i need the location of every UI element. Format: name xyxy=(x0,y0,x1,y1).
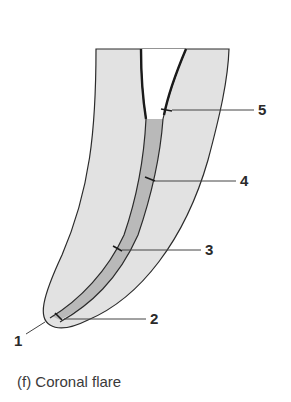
figure-caption: (f) Coronal flare xyxy=(17,373,121,390)
label-3: 3 xyxy=(205,241,213,258)
root-outline xyxy=(43,49,229,328)
label-2: 2 xyxy=(150,310,158,327)
label-1: 1 xyxy=(14,332,22,349)
label-5: 5 xyxy=(258,101,266,118)
leader-1 xyxy=(26,322,45,334)
root-canal-diagram: 5 4 3 2 1 xyxy=(0,0,291,402)
label-4: 4 xyxy=(240,172,249,189)
